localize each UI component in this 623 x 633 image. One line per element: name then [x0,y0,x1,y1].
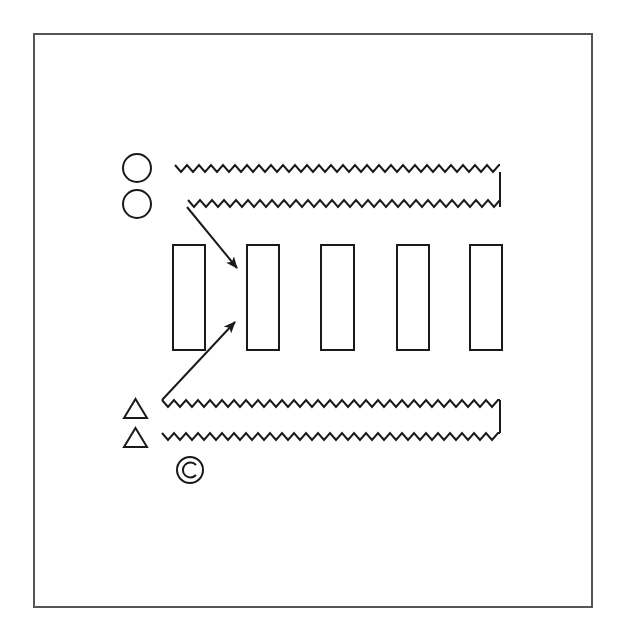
diagram-frame [34,34,592,607]
dribble-path-bottom-inner [162,433,500,440]
dribble-path-top-inner [188,200,500,207]
cone-5 [470,245,502,350]
circle-2-icon [123,190,151,218]
cone-2 [247,245,279,350]
cone-4 [397,245,429,350]
arrow-down-icon [187,207,237,268]
triangle-2-icon [124,428,147,447]
dribble-path-top-outer [175,165,500,172]
cone-1 [173,245,205,350]
drill-diagram [0,0,623,633]
triangle-1-icon [124,399,147,418]
coach-circle-icon [177,457,203,483]
circle-1-icon [123,154,151,182]
dribble-path-bottom-outer [162,400,500,407]
dribble-paths-group [162,165,500,440]
cone-3 [321,245,354,350]
coach-c-glyph-icon [183,463,196,478]
